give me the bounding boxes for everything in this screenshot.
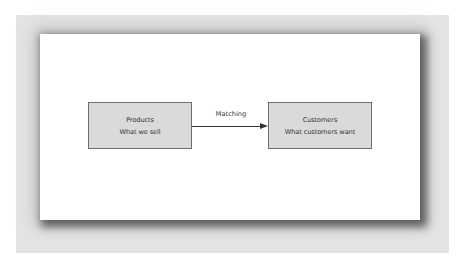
matching-edge-line: [192, 126, 262, 127]
customers-node: Customers What customers want: [268, 102, 372, 149]
diagram-card: Products What we sell Matching Customers…: [40, 34, 420, 220]
matching-edge-label: Matching: [208, 110, 254, 118]
customers-node-title: Customers: [303, 114, 338, 126]
products-node: Products What we sell: [88, 102, 192, 149]
customers-node-subtitle: What customers want: [285, 126, 355, 138]
products-node-subtitle: What we sell: [120, 126, 161, 138]
products-node-title: Products: [126, 114, 154, 126]
arrow-head-icon: [260, 123, 268, 129]
